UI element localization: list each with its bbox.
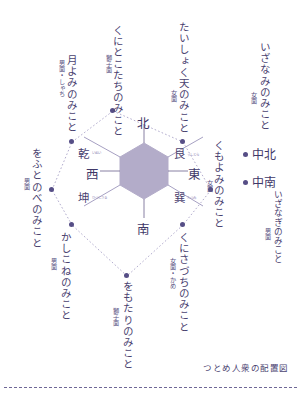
direction-northeast: 艮 <box>174 145 185 161</box>
direction-northeast-ruby: うしとら <box>187 152 199 157</box>
label-ofutonobe-name: をふとのべのみこと <box>31 148 42 249</box>
label-izanagi-face: 男面 <box>264 228 270 241</box>
label-kumoyomi-face: 女面 <box>206 180 212 193</box>
label-kunisazuchi-face: 女面・かめ <box>169 258 175 289</box>
label-ofutonobe-face: 男面 <box>23 178 29 191</box>
node-tsukiyomi[interactable] <box>69 139 74 144</box>
label-izanagi-name: いざなぎのみこと <box>272 190 281 263</box>
node-ofutonobe[interactable] <box>49 187 54 192</box>
node-izanami[interactable] <box>243 152 248 157</box>
bottom-divider <box>4 387 297 388</box>
label-izanami-name: いざなみのみこと <box>259 42 270 132</box>
label-tsukiyomi-face: 男面・しゃち <box>58 60 64 98</box>
node-izanagi[interactable] <box>243 180 248 185</box>
node-kashikone[interactable] <box>69 222 74 227</box>
label-tsukiyomi-name: 月よみのみこと <box>66 55 77 133</box>
connector-lines <box>0 0 301 393</box>
label-kunisazuchi-name: くにさづちのみこと <box>178 232 189 333</box>
label-taishokuten-name: たいしょく天のみこと <box>178 22 189 134</box>
direction-north: 北 <box>137 113 150 132</box>
kanrodai-hexagon <box>120 143 168 199</box>
label-kashikone-name: かしこねのみこと <box>60 232 71 322</box>
direction-northwest: 乾 <box>78 145 89 161</box>
direction-southeast: 巽 <box>174 189 185 205</box>
direction-southeast-ruby: たつみ <box>187 195 196 200</box>
diagram-canvas: 北 南 東 西 乾 いぬい 艮 うしとら 坤 ひつじさる 巽 たつみ くにとこた… <box>0 0 301 393</box>
direction-northwest-ruby: いぬい <box>92 150 101 155</box>
direction-southwest-ruby: ひつじさる <box>92 195 107 200</box>
figure-caption: つとめ人衆の配置図 <box>203 361 289 373</box>
label-kumoyomi-name: くもよみのみこと <box>213 140 224 230</box>
direction-southwest: 坤 <box>78 189 89 205</box>
label-omotari-face: 獅子面 <box>112 308 118 327</box>
label-taishokuten-face: 女面 <box>170 90 176 103</box>
direction-east: 東 <box>188 164 201 183</box>
label-kunitokotachi-name: くにとこたちのみこと <box>112 25 123 137</box>
direction-west: 西 <box>86 164 99 183</box>
marker-izanami-chuhoku: 中北 <box>252 145 276 162</box>
node-omotari[interactable] <box>124 273 129 278</box>
label-kashikone-face: 男面 <box>50 258 56 271</box>
marker-izanagi-chunan: 中南 <box>252 173 276 190</box>
node-kunisazuchi[interactable] <box>180 222 185 227</box>
label-omotari-name: をもたりのみこと <box>122 281 133 371</box>
direction-south: 南 <box>137 219 150 238</box>
label-kunitokotachi-face: 獅子面 <box>105 55 111 74</box>
label-izanami-face: 女面 <box>250 92 256 105</box>
node-taishokuten[interactable] <box>180 139 185 144</box>
